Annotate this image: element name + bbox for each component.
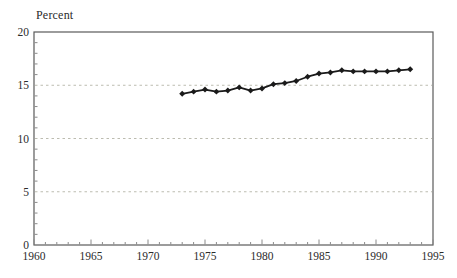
data-point-1987 [339, 67, 345, 73]
data-point-1991 [384, 68, 390, 74]
y-tick-label-10: 10 [2, 133, 29, 145]
x-tick-label-1990: 1990 [360, 250, 392, 262]
data-point-1979 [248, 88, 254, 94]
data-point-1984 [305, 74, 311, 80]
data-point-1985 [316, 71, 322, 77]
line-chart: Percent 05101520 19601965197019751980198… [0, 0, 457, 278]
data-point-1983 [293, 78, 299, 84]
data-point-1977 [225, 88, 231, 94]
y-tick-label-20: 20 [2, 26, 29, 38]
data-point-1981 [270, 81, 276, 87]
x-tick-label-1995: 1995 [417, 250, 449, 262]
data-point-1974 [191, 89, 197, 95]
data-point-1980 [259, 85, 265, 91]
y-axis-unit-label: Percent [36, 8, 73, 23]
data-point-1990 [373, 68, 379, 74]
data-point-1976 [213, 89, 219, 95]
x-tick-label-1985: 1985 [303, 250, 335, 262]
data-point-1989 [362, 68, 368, 74]
data-point-1992 [396, 67, 402, 73]
plot-area [0, 0, 457, 278]
x-tick-label-1960: 1960 [18, 250, 50, 262]
data-point-1988 [350, 68, 356, 74]
x-tick-label-1980: 1980 [246, 250, 278, 262]
data-point-1993 [407, 66, 413, 72]
y-tick-label-15: 15 [2, 79, 29, 91]
y-tick-label-5: 5 [2, 186, 29, 198]
x-tick-label-1965: 1965 [75, 250, 107, 262]
data-point-1973 [179, 91, 185, 97]
data-point-1978 [236, 84, 242, 90]
data-point-1986 [327, 70, 333, 76]
data-point-1975 [202, 87, 208, 93]
x-tick-label-1970: 1970 [132, 250, 164, 262]
x-tick-label-1975: 1975 [189, 250, 221, 262]
